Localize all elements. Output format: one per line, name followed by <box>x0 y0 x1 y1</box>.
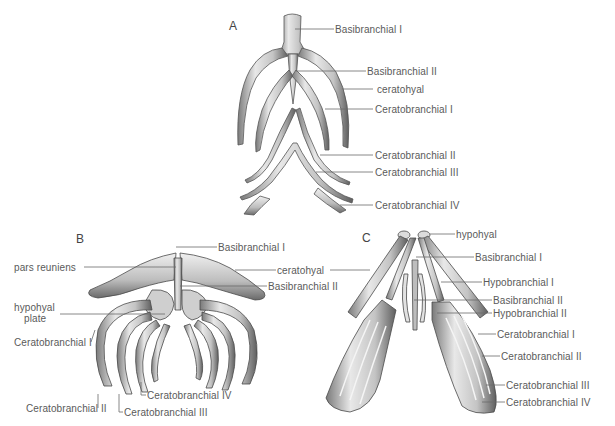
panel-c-letter: C <box>362 231 371 245</box>
label-a-ceratobranchial-1: Ceratobranchial I <box>375 104 453 115</box>
label-c-basibranchial-2: Basibranchial II <box>493 295 563 306</box>
label-c-ceratobranchial-2: Ceratobranchial II <box>501 351 582 362</box>
label-b-basibranchial-2: Basibranchial II <box>268 281 338 292</box>
label-c-ceratobranchial-1: Ceratobranchial I <box>497 329 575 340</box>
label-c-ceratobranchial-3: Ceratobranchial III <box>506 380 590 391</box>
label-a-ceratobranchial-2: Ceratobranchial II <box>375 150 456 161</box>
label-a-basibranchial-1: Basibranchial I <box>335 24 402 35</box>
label-a-ceratobranchial-3: Ceratobranchial III <box>375 167 459 178</box>
panel-c-drawing <box>326 231 496 413</box>
label-b-ceratobranchial-1: Ceratobranchial I <box>14 337 92 348</box>
label-b-basibranchial-1: Basibranchial I <box>218 242 285 253</box>
label-c-hypobranchial-2: Hypobranchial II <box>493 308 567 319</box>
label-b-plate: plate <box>24 313 46 324</box>
label-b-ceratobranchial-2: Ceratobranchial II <box>26 403 107 414</box>
label-b-pars-reuniens: pars reuniens <box>14 262 76 273</box>
panel-b-drawing <box>89 253 265 394</box>
panel-b-letter: B <box>76 232 84 246</box>
label-b-hypohyal: hypohyal <box>14 302 55 313</box>
label-b-ceratobranchial-3: Ceratobranchial III <box>124 407 208 418</box>
label-ceratohyal-shared: ceratohyal <box>277 265 324 276</box>
label-c-ceratobranchial-4: Ceratobranchial IV <box>506 397 591 408</box>
panel-a-letter: A <box>229 19 237 33</box>
label-b-ceratobranchial-4: Ceratobranchial IV <box>147 390 232 401</box>
label-c-basibranchial-1: Basibranchial I <box>475 252 542 263</box>
label-c-hypobranchial-1: Hypobranchial I <box>483 277 554 288</box>
label-c-hypohyal: hypohyal <box>456 229 497 240</box>
label-a-ceratobranchial-4: Ceratobranchial IV <box>375 200 460 211</box>
label-a-ceratohyal: ceratohyal <box>377 84 424 95</box>
panel-a-drawing <box>238 14 353 215</box>
label-a-basibranchial-2: Basibranchial II <box>367 66 437 77</box>
anatomical-illustration <box>0 0 615 426</box>
